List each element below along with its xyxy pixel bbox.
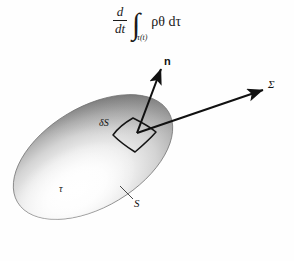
volume-label: τ [59,183,63,194]
normal-vector-label: n [164,55,171,67]
surface-element-label: δS [99,117,109,128]
blob-highlight [0,69,194,245]
diagram-canvas [0,0,294,261]
figure-root: d dt ∫τ(t)ρθ dτ [0,0,294,261]
surface-label: S [134,197,140,209]
sigma-surface-label: Σ [268,78,275,90]
volume-blob [0,69,194,245]
